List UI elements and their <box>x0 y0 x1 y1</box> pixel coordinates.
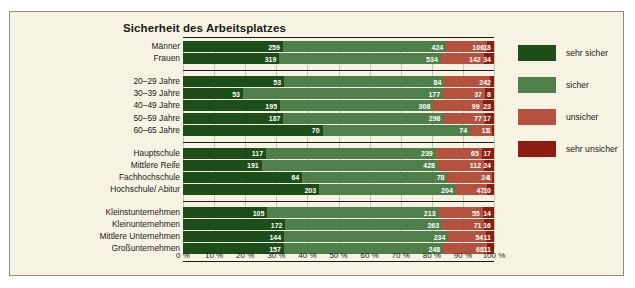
legend-item[interactable]: unsicher <box>518 109 628 141</box>
bar-value-label: 34 <box>483 55 491 62</box>
bar-value-label: 213 <box>424 209 436 216</box>
x-tick-label: 10 % <box>205 252 223 260</box>
bar-value-label: 259 <box>268 43 280 50</box>
bar-value-label: 187 <box>269 115 281 122</box>
plot-area: 2594241061831953414234538424253177378195… <box>183 41 494 249</box>
bar-row[interactable]: 1442345411 <box>183 231 494 242</box>
bar-value-label: 24 <box>479 78 487 85</box>
bar-segment: 424 <box>283 41 446 52</box>
bar-value-label: 18 <box>483 43 491 50</box>
bar-value-label: 64 <box>291 174 299 181</box>
x-tick-label: 70 % <box>392 252 410 260</box>
bar-row[interactable]: 2032044710 <box>183 184 494 195</box>
category-label: 50–59 Jahre <box>12 114 180 122</box>
legend-swatch <box>518 45 556 61</box>
bar-value-label: 142 <box>469 55 481 62</box>
bar-segment: 187 <box>183 113 283 124</box>
bar-row[interactable]: 6478241 <box>183 172 494 183</box>
chart-frame: Sicherheit des Arbeitsplatzes MännerFrau… <box>9 11 624 276</box>
bar-row[interactable]: 19142811224 <box>183 160 494 171</box>
bar-value-label: 144 <box>269 233 281 240</box>
legend-item[interactable]: sehr sicher <box>518 45 628 77</box>
x-tick-label: 30 % <box>267 252 285 260</box>
bar-value-label: 70 <box>312 127 320 134</box>
bar-value-label: 71 <box>474 221 482 228</box>
bar-value-label: 17 <box>483 150 491 157</box>
bar-segment: 117 <box>183 148 266 159</box>
bar-segment: 259 <box>183 41 283 52</box>
bar-segment: 71 <box>442 219 484 230</box>
bar-row[interactable]: 7074111 <box>183 125 494 136</box>
category-label: Männer <box>12 42 180 50</box>
chart-title: Sicherheit des Arbeitsplatzes <box>123 22 286 34</box>
bar-row[interactable]: 1052135514 <box>183 207 494 218</box>
bar-segment: 1 <box>492 125 494 136</box>
bar-row[interactable]: 1872987717 <box>183 113 494 124</box>
bar-segment: 213 <box>267 207 438 218</box>
bar-segment: 112 <box>438 160 484 171</box>
bar-segment: 195 <box>183 100 280 111</box>
bar-segment: 308 <box>280 100 433 111</box>
bar-row[interactable]: 1172396517 <box>183 148 494 159</box>
grid-line <box>494 41 495 249</box>
bar-value-label: 308 <box>419 102 431 109</box>
bar-value-label: 16 <box>483 221 491 228</box>
bar-row[interactable]: 53177378 <box>183 88 494 99</box>
bar-value-label: 2 <box>487 78 491 85</box>
bar-value-label: 14 <box>483 209 491 216</box>
legend-label: sehr unsicher <box>566 144 618 154</box>
bar-segment: 11 <box>486 231 494 242</box>
bar-segment: 34 <box>484 53 494 64</box>
category-label: Kleinstunternehmen <box>12 208 180 216</box>
x-tick-label: 20 % <box>236 252 254 260</box>
bar-segment: 105 <box>183 207 267 218</box>
bar-row[interactable]: 1953089923 <box>183 100 494 111</box>
bar-value-label: 54 <box>475 233 483 240</box>
category-label: Mittlere Reife <box>12 161 180 169</box>
bar-value-label: 17 <box>483 115 491 122</box>
legend-swatch <box>518 141 556 157</box>
bar-segment: 106 <box>446 41 487 52</box>
bar-segment: 191 <box>183 160 262 171</box>
bar-value-label: 74 <box>459 127 467 134</box>
bar-segment: 298 <box>283 113 443 124</box>
bar-segment: 204 <box>319 184 456 195</box>
bar-segment: 319 <box>183 53 279 64</box>
bar-value-label: 204 <box>441 186 453 193</box>
bar-segment: 23 <box>483 100 494 111</box>
bar-segment: 18 <box>487 41 494 52</box>
legend-swatch <box>518 109 556 125</box>
bar-value-label: 424 <box>432 43 444 50</box>
x-tick-label: 50 % <box>329 252 347 260</box>
x-tick-label: 100 % <box>483 252 506 260</box>
group-separator <box>183 142 494 143</box>
category-label-column: MännerFrauen20–29 Jahre30–39 Jahre40–49 … <box>10 41 180 249</box>
bar-value-label: 8 <box>487 90 491 97</box>
bar-value-label: 11 <box>484 233 491 240</box>
bar-segment: 77 <box>444 113 485 124</box>
bar-segment: 24 <box>447 172 492 183</box>
bar-row[interactable]: 25942410618 <box>183 41 494 52</box>
chart-legend: sehr sichersicherunsichersehr unsicher <box>518 45 628 173</box>
bar-row[interactable]: 31953414234 <box>183 53 494 64</box>
category-label: Kleinunternehmen <box>12 220 180 228</box>
bar-segment: 234 <box>284 231 448 242</box>
legend-item[interactable]: sehr unsicher <box>518 141 628 173</box>
bar-value-label: 84 <box>434 78 442 85</box>
bar-segment: 53 <box>183 76 284 87</box>
legend-item[interactable]: sicher <box>518 77 628 109</box>
bar-segment: 84 <box>284 76 444 87</box>
bar-row[interactable]: 1722637116 <box>183 219 494 230</box>
bar-value-label: 10 <box>483 186 491 193</box>
bar-segment: 428 <box>262 160 438 171</box>
bar-segment: 17 <box>482 148 494 159</box>
legend-label: sehr sicher <box>566 48 608 58</box>
category-label: 40–49 Jahre <box>12 101 180 109</box>
bar-segment: 55 <box>439 207 483 218</box>
bar-segment: 99 <box>433 100 482 111</box>
x-tick-label: 0 % <box>176 252 190 260</box>
bar-segment: 24 <box>444 76 490 87</box>
bar-value-label: 112 <box>470 162 481 169</box>
bar-value-label: 191 <box>247 162 259 169</box>
bar-row[interactable]: 5384242 <box>183 76 494 87</box>
